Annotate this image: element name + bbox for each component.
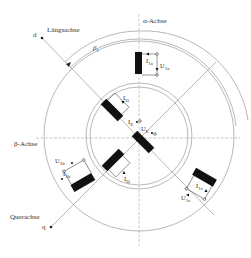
current-arrow-1c-icon bbox=[205, 189, 208, 192]
stator-winding-1a: I1a U1a bbox=[135, 52, 170, 76]
winding-coil-1a bbox=[135, 52, 142, 74]
winding-coil-Q bbox=[102, 149, 125, 172]
beta1-arrow-icon bbox=[66, 62, 71, 67]
current-arrow-Q-icon bbox=[123, 171, 126, 174]
voltage-arrow-E-icon bbox=[151, 132, 153, 134]
current-arrow-1a-icon bbox=[146, 53, 149, 56]
winding-coil-D bbox=[101, 99, 124, 122]
current-label-E: IE bbox=[128, 118, 133, 127]
winding-coil-E bbox=[132, 131, 155, 154]
q-axis-symbol: q bbox=[42, 223, 46, 231]
voltage-arrow-1a-icon bbox=[156, 68, 159, 71]
voltage-label-1c: U1c bbox=[181, 194, 191, 203]
beta-axis-label: β-Achse bbox=[14, 140, 37, 148]
rotor-winding-Q bbox=[102, 149, 132, 179]
voltage-arrow-1b-icon bbox=[71, 162, 73, 164]
axes bbox=[36, 14, 240, 246]
rotor-winding-E bbox=[132, 131, 155, 154]
current-label-1c: I1c bbox=[196, 182, 204, 191]
current-arrow-E-icon bbox=[136, 121, 138, 123]
current-label-1a: I1a bbox=[146, 57, 154, 66]
voltage-label-1b: U1b bbox=[55, 157, 65, 166]
q-axis-label: Querachse bbox=[10, 213, 40, 221]
d-axis-label: Längsachse bbox=[47, 26, 80, 34]
current-label-1b: I1b bbox=[63, 170, 71, 179]
angle-beta1-label: β1 bbox=[92, 44, 99, 53]
rotor-winding-D bbox=[101, 92, 131, 122]
d-axis-symbol: d bbox=[33, 31, 37, 39]
d-axis-endpoint-icon bbox=[41, 37, 44, 40]
winding-coil-1b bbox=[70, 173, 95, 192]
voltage-label-1a: U1a bbox=[160, 62, 170, 71]
q-axis-endpoint-icon bbox=[50, 226, 53, 229]
current-label-Q: IQ bbox=[124, 175, 130, 184]
alpha-axis-label: α-Achse bbox=[143, 17, 167, 25]
voltage-label-E: UE bbox=[141, 125, 149, 134]
voltage-arrow-1c-icon bbox=[186, 194, 189, 197]
current-arrow-1b-icon bbox=[61, 178, 63, 180]
synchronous-machine-diagram: α-Achse β-Achse d Längsachse q Querachse… bbox=[0, 0, 251, 258]
